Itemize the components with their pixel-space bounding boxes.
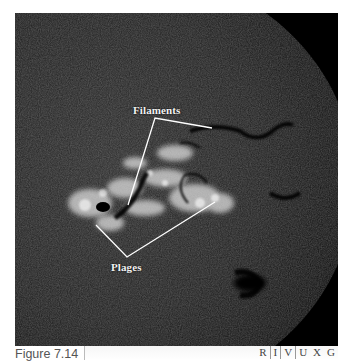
band-v: V bbox=[280, 346, 295, 359]
plages-label: Plages bbox=[111, 261, 142, 273]
band-g: G bbox=[324, 346, 338, 359]
band-r: R bbox=[256, 346, 269, 359]
band-u: U bbox=[295, 346, 310, 359]
solar-image: Filaments Plages bbox=[15, 13, 338, 346]
solar-disk-graphic bbox=[15, 13, 338, 346]
band-x: X bbox=[310, 346, 324, 359]
filaments-label: Filaments bbox=[133, 104, 180, 116]
figure-number: Figure 7.14 bbox=[15, 347, 78, 361]
wavelength-bands: R I V U X G bbox=[256, 346, 338, 359]
band-i: I bbox=[270, 346, 281, 359]
